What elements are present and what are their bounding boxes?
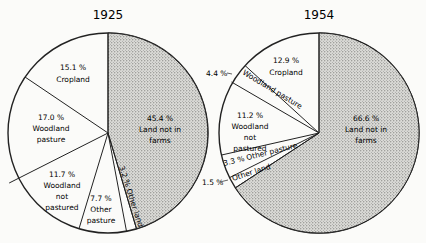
label-other-pasture-pct-1925: 7.7 %	[90, 194, 111, 203]
label-wnp-1925-l2: not	[56, 192, 68, 201]
label-wnp-1954-l1: Woodland	[231, 122, 268, 131]
label-wnp-pct-1954: 11.2 %	[237, 111, 263, 120]
label-crop-pct-1925: 15.1 %	[60, 63, 86, 72]
label-wp-1925-l2: pasture	[37, 135, 66, 144]
pie-1954-title: 1954	[304, 8, 335, 22]
label-wp-1925-l1: Woodland	[32, 124, 69, 133]
label-other-land-pct-1954: 1.5 %	[202, 178, 223, 187]
label-wp-pct-1954: 4.4 %	[206, 69, 227, 78]
label-other-pasture-1925-l1: Other	[90, 205, 112, 214]
label-land-pct-1954: 66.6 %	[353, 114, 379, 123]
label-crop-1954: Cropland	[269, 68, 303, 77]
label-land-1925-line2: farms	[149, 136, 170, 145]
label-land-1954-l2: farms	[355, 136, 376, 145]
label-crop-pct-1954: 12.9 %	[273, 56, 299, 65]
label-other-pasture-1925-l2: pasture	[87, 216, 116, 225]
label-wnp-1925-l1: Woodland	[43, 181, 80, 190]
label-wnp-1954-l3: pastured	[233, 144, 266, 153]
label-land-pct-1925: 45.4 %	[147, 114, 173, 123]
label-wnp-pct-1925: 11.7 %	[49, 170, 75, 179]
label-land-1925-line1: Land not in	[139, 125, 181, 134]
label-wnp-1925-l3: pastured	[45, 203, 78, 212]
pie-1925-title: 1925	[93, 8, 124, 22]
pie-1925: 1925 45.4 % Land not in farms 3.2 % Othe…	[8, 8, 208, 233]
label-land-1954-l1: Land not in	[345, 125, 387, 134]
label-wp-pct-1925: 17.0 %	[38, 113, 64, 122]
pie-1954: 1954 66.6 % Land not in farms 1.5 % Othe…	[202, 8, 419, 233]
label-wnp-1954-l2: not	[244, 133, 256, 142]
pie-charts: 1925 45.4 % Land not in farms 3.2 % Othe…	[0, 0, 426, 243]
label-crop-1925: Cropland	[56, 75, 90, 84]
